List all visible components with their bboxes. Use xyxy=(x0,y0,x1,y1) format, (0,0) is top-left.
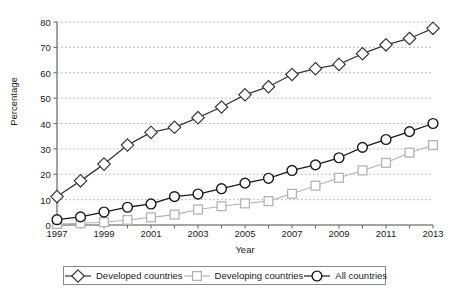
x-tick-label: 2009 xyxy=(328,228,349,239)
data-point-marker xyxy=(192,271,201,280)
legend-label: Developed countries xyxy=(95,270,183,281)
legend-item[interactable]: Developed countries xyxy=(64,269,183,283)
data-point-marker xyxy=(239,89,251,101)
data-point-marker xyxy=(356,48,368,60)
data-point-marker xyxy=(405,148,414,157)
data-point-marker xyxy=(241,199,250,208)
data-point-marker xyxy=(170,192,180,202)
data-point-marker xyxy=(52,215,62,225)
data-point-marker xyxy=(264,197,273,206)
data-point-marker xyxy=(262,81,274,93)
data-point-marker xyxy=(335,173,344,182)
legend-label: Developing countries xyxy=(214,270,304,281)
data-point-marker xyxy=(405,127,415,137)
x-tick-label: 2003 xyxy=(187,228,208,239)
data-point-marker xyxy=(76,212,86,222)
data-point-marker xyxy=(358,142,368,152)
data-point-marker xyxy=(429,141,438,150)
legend-item[interactable]: Developing countries xyxy=(183,269,304,283)
square-marker xyxy=(183,269,211,283)
data-point-marker xyxy=(427,22,439,34)
data-point-marker xyxy=(382,158,391,167)
data-point-marker xyxy=(72,269,84,281)
circle-marker xyxy=(303,269,331,283)
data-point-marker xyxy=(193,189,203,199)
data-point-marker xyxy=(170,210,179,219)
data-point-marker xyxy=(215,101,227,113)
x-tick-label: 2007 xyxy=(281,228,302,239)
data-point-marker xyxy=(403,32,415,44)
data-point-marker xyxy=(168,121,180,133)
x-axis-title: Year xyxy=(57,244,433,255)
data-point-marker xyxy=(333,58,345,70)
x-tick-label: 2005 xyxy=(234,228,255,239)
data-point-marker xyxy=(145,126,157,138)
legend-label: All countries xyxy=(334,270,387,281)
legend-item[interactable]: All countries xyxy=(303,269,387,283)
data-point-marker xyxy=(123,202,133,212)
data-point-marker xyxy=(217,202,226,211)
data-point-marker xyxy=(192,111,204,123)
data-point-marker xyxy=(381,135,391,145)
line-chart-figure: 01020304050607080 Percentage 19971999200… xyxy=(0,0,449,292)
data-point-marker xyxy=(123,216,132,225)
data-point-marker xyxy=(100,218,109,227)
x-tick-label: 2011 xyxy=(376,228,396,239)
data-point-marker xyxy=(288,189,297,198)
data-point-marker xyxy=(358,166,367,175)
data-point-marker xyxy=(99,207,109,217)
x-axis-tick-labels: 199719992001200320052007200920112013 xyxy=(0,228,449,244)
series-line xyxy=(57,28,433,196)
data-point-marker xyxy=(380,39,392,51)
data-point-marker xyxy=(428,119,438,129)
x-tick-label: 2001 xyxy=(140,228,161,239)
x-tick-label: 1997 xyxy=(46,228,67,239)
data-point-marker xyxy=(217,184,227,194)
data-point-marker xyxy=(240,178,250,188)
data-point-marker xyxy=(286,68,298,80)
diamond-marker xyxy=(64,269,92,283)
data-point-marker xyxy=(74,175,86,187)
data-point-marker xyxy=(334,153,344,163)
data-point-marker xyxy=(146,199,156,209)
data-point-marker xyxy=(309,62,321,74)
data-point-marker xyxy=(264,173,274,183)
x-tick-label: 1999 xyxy=(93,228,114,239)
x-tick-label: 2013 xyxy=(422,228,443,239)
data-point-marker xyxy=(287,166,297,176)
chart-legend: Developed countriesDeveloping countriesA… xyxy=(63,266,386,285)
data-point-marker xyxy=(311,160,321,170)
data-point-marker xyxy=(312,271,322,281)
data-point-marker xyxy=(194,205,203,214)
data-point-marker xyxy=(147,213,156,222)
data-point-marker xyxy=(51,190,63,202)
data-point-marker xyxy=(311,181,320,190)
